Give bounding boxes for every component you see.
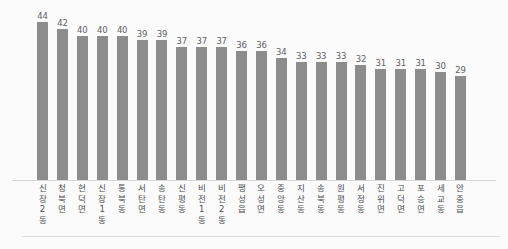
- x-axis-tick-label: 포승면: [414, 183, 427, 215]
- x-axis-tick-label: 지산동: [295, 183, 308, 215]
- tick-label-char: 비: [195, 183, 208, 194]
- bar-value-label: 34: [276, 48, 286, 57]
- bar-column: 40: [77, 0, 88, 180]
- tick-label-char: 장: [36, 194, 49, 205]
- x-axis-tick-label: 안중읍: [454, 183, 467, 215]
- tick-label-char: 2: [36, 204, 49, 215]
- bar: [176, 47, 187, 180]
- x-axis-tick-label: 고덕면: [394, 183, 407, 215]
- x-axis-tick-labels: 신장2동청북면현덕면신장1동통북동서탄면송탄동신평동비전1동비전2동팽성읍오성면…: [0, 183, 508, 235]
- tick-label-char: 동: [195, 215, 208, 226]
- tick-label-char: 동: [354, 204, 367, 215]
- x-axis-tick-label: 신장2동: [36, 183, 49, 225]
- x-axis-tick-label: 중앙동: [275, 183, 288, 215]
- bar-column: 37: [196, 0, 207, 180]
- tick-label-char: 전: [215, 194, 228, 205]
- tick-label-char: 동: [315, 204, 328, 215]
- tick-label-char: 동: [215, 215, 228, 226]
- tick-label-char: 팽: [235, 183, 248, 194]
- x-axis-tick-label: 비전1동: [195, 183, 208, 225]
- bar-chart: 4442404040393937373736363433333332313131…: [0, 0, 508, 249]
- x-axis-tick-label: 원평동: [335, 183, 348, 215]
- tick-label-char: 오: [255, 183, 268, 194]
- bar-column: 34: [276, 0, 287, 180]
- tick-label-char: 정: [354, 194, 367, 205]
- bar: [316, 62, 327, 181]
- tick-label-char: 청: [56, 183, 69, 194]
- bar-column: 36: [236, 0, 247, 180]
- tick-label-char: 면: [255, 204, 268, 215]
- bar-value-label: 39: [157, 30, 167, 39]
- x-axis-tick-label: 송탄동: [155, 183, 168, 215]
- x-axis-tick-label: 세교동: [434, 183, 447, 215]
- tick-label-char: 읍: [235, 204, 248, 215]
- tick-label-char: 평: [335, 194, 348, 205]
- x-axis-tick-label: 송북동: [315, 183, 328, 215]
- bar-value-label: 36: [236, 41, 246, 50]
- bar-column: 39: [156, 0, 167, 180]
- tick-label-char: 면: [394, 204, 407, 215]
- bar-column: 37: [176, 0, 187, 180]
- tick-label-char: 세: [434, 183, 447, 194]
- tick-label-char: 승: [414, 194, 427, 205]
- tick-label-char: 덕: [394, 194, 407, 205]
- tick-label-char: 송: [155, 183, 168, 194]
- bar-value-label: 29: [455, 66, 465, 75]
- bar-column: 31: [415, 0, 426, 180]
- tick-label-char: 진: [374, 183, 387, 194]
- bar-column: 33: [296, 0, 307, 180]
- bar: [355, 65, 366, 180]
- tick-label-char: 읍: [454, 204, 467, 215]
- tick-label-char: 중: [454, 194, 467, 205]
- bar: [196, 47, 207, 180]
- bar: [137, 40, 148, 180]
- tick-label-char: 성: [235, 194, 248, 205]
- bar: [236, 51, 247, 180]
- bar-column: 33: [316, 0, 327, 180]
- tick-label-char: 동: [96, 215, 109, 226]
- bar-value-label: 40: [117, 26, 127, 35]
- bar-column: 42: [57, 0, 68, 180]
- bar: [435, 72, 446, 180]
- tick-label-char: 포: [414, 183, 427, 194]
- bar-value-label: 31: [395, 59, 405, 68]
- tick-label-char: 서: [354, 183, 367, 194]
- tick-label-char: 위: [374, 194, 387, 205]
- x-axis-tick-label: 신장1동: [96, 183, 109, 225]
- bottom-divider: [22, 236, 500, 237]
- tick-label-char: 면: [76, 204, 89, 215]
- bar-column: 31: [395, 0, 406, 180]
- tick-label-char: 원: [335, 183, 348, 194]
- bar-value-label: 37: [196, 37, 206, 46]
- bar-column: 31: [375, 0, 386, 180]
- tick-label-char: 북: [56, 194, 69, 205]
- tick-label-char: 신: [96, 183, 109, 194]
- tick-label-char: 동: [275, 204, 288, 215]
- bar-value-label: 31: [415, 59, 425, 68]
- bar-column: 37: [216, 0, 227, 180]
- tick-label-char: 북: [315, 194, 328, 205]
- tick-label-char: 서: [136, 183, 149, 194]
- x-axis-tick-label: 서탄면: [136, 183, 149, 215]
- bar: [37, 22, 48, 180]
- tick-label-char: 동: [335, 204, 348, 215]
- bar: [296, 62, 307, 181]
- bar-value-label: 33: [316, 52, 326, 61]
- bar: [415, 69, 426, 180]
- tick-label-char: 지: [295, 183, 308, 194]
- bar-value-label: 31: [376, 59, 386, 68]
- tick-label-char: 신: [36, 183, 49, 194]
- bar: [97, 36, 108, 180]
- x-axis-tick-label: 진위면: [374, 183, 387, 215]
- tick-label-char: 동: [175, 204, 188, 215]
- bar-value-label: 40: [77, 26, 87, 35]
- bar: [77, 36, 88, 180]
- tick-label-char: 동: [155, 204, 168, 215]
- tick-label-char: 성: [255, 194, 268, 205]
- x-axis-tick-label: 통북동: [116, 183, 129, 215]
- x-axis-tick-label: 신평동: [175, 183, 188, 215]
- bar: [117, 36, 128, 180]
- x-axis-tick-label: 서정동: [354, 183, 367, 215]
- x-axis-tick-label: 오성면: [255, 183, 268, 215]
- x-axis-tick-label: 청북면: [56, 183, 69, 215]
